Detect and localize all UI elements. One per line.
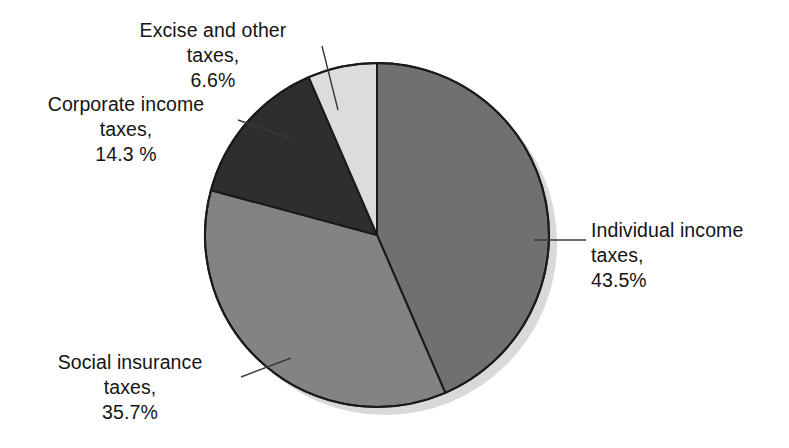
slice-label-social-insurance-value: 35.7%: [22, 400, 238, 425]
slice-label-corporate-income: Corporate income taxes, 14.3 %: [18, 92, 234, 167]
slice-label-corporate-income-value: 14.3 %: [18, 142, 234, 167]
slice-label-social-insurance: Social insurance taxes, 35.7%: [22, 350, 238, 425]
slice-label-individual-income-line1: Individual income: [591, 218, 777, 243]
slice-label-corporate-income-line2: taxes,: [18, 117, 234, 142]
slice-label-individual-income-line2: taxes,: [591, 243, 777, 268]
slice-label-social-insurance-line1: Social insurance: [22, 350, 238, 375]
slice-label-individual-income-value: 43.5%: [591, 268, 777, 293]
pie-chart-figure: Excise and other taxes, 6.6% Corporate i…: [0, 0, 789, 448]
slice-label-corporate-income-line1: Corporate income: [18, 92, 234, 117]
slice-label-excise-other-line1: Excise and other: [110, 18, 316, 43]
slice-label-excise-other: Excise and other taxes, 6.6%: [110, 18, 316, 93]
slice-label-social-insurance-line2: taxes,: [22, 375, 238, 400]
slice-label-excise-other-line2: taxes,: [110, 43, 316, 68]
slice-label-individual-income: Individual income taxes, 43.5%: [591, 218, 777, 293]
slice-label-excise-other-value: 6.6%: [110, 68, 316, 93]
